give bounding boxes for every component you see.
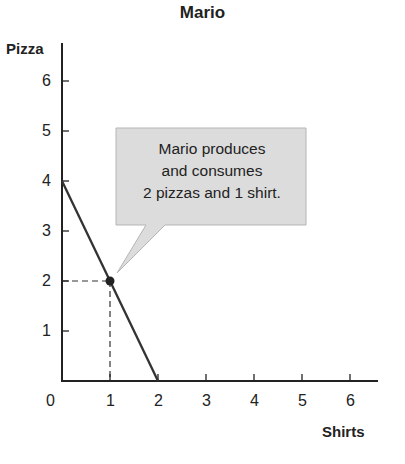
callout-line: and consumes	[117, 160, 307, 182]
callout-line: 2 pizzas and 1 shirt.	[117, 182, 307, 204]
x-tick-label: 0	[46, 392, 55, 410]
x-ticks	[110, 374, 350, 381]
y-tick-label: 5	[42, 122, 51, 140]
y-tick-label: 6	[42, 72, 51, 90]
x-tick-label: 3	[202, 392, 211, 410]
x-tick-label: 4	[250, 392, 259, 410]
x-tick-label: 5	[298, 392, 307, 410]
y-tick-label: 4	[42, 172, 51, 190]
x-tick-label: 6	[346, 392, 355, 410]
callout-line: Mario produces	[117, 138, 307, 160]
callout-text: Mario produces and consumes 2 pizzas and…	[117, 129, 307, 225]
y-tick-label: 3	[42, 222, 51, 240]
y-tick-label: 1	[42, 322, 51, 340]
consumption-point	[106, 277, 115, 286]
x-tick-label: 2	[154, 392, 163, 410]
y-ticks	[62, 81, 69, 331]
y-tick-label: 2	[42, 272, 51, 290]
x-tick-label: 1	[106, 392, 115, 410]
